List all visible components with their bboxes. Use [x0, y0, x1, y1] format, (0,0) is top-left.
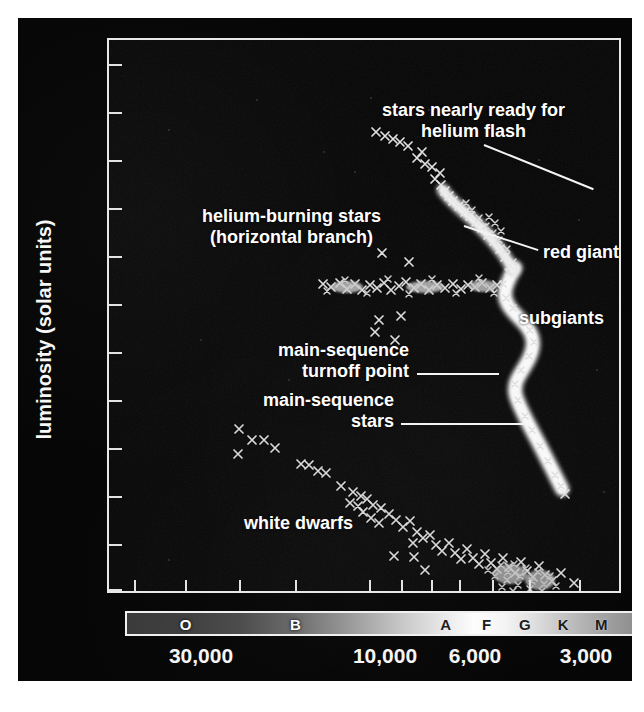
- y-tick-1e6: [109, 64, 122, 66]
- annotation-helium-flash-line1: stars nearly ready for: [382, 100, 565, 120]
- y-tick-1: [109, 352, 122, 354]
- annotation-subgiants-label: subgiants: [519, 308, 604, 328]
- plot-area: stars nearly ready forhelium flash heliu…: [109, 40, 619, 591]
- x-tick-d: [401, 580, 403, 591]
- y-tick-10: [109, 304, 122, 306]
- spectral-class-A: A: [440, 615, 451, 632]
- hr-diagram-figure: stars nearly ready forhelium flash heliu…: [0, 0, 644, 712]
- annotation-ms-turnoff: main-sequenceturnoff point: [219, 340, 409, 382]
- x-tick-c: [295, 580, 297, 591]
- x-tick-b: [239, 580, 241, 591]
- x-tick-g: [529, 580, 531, 591]
- figure-caption-cutoff: [18, 694, 618, 708]
- y-axis-title: luminosity (solar units): [33, 130, 56, 530]
- x-tick-e: [431, 580, 433, 591]
- annotation-ms-turnoff-line2: turnoff point: [302, 361, 409, 381]
- spectral-class-M: M: [595, 615, 608, 632]
- y-tick-1e3: [109, 208, 122, 210]
- x-tick-f: [492, 580, 494, 591]
- y-tick-1e-3: [109, 496, 122, 498]
- leader-ms-turnoff: [417, 373, 499, 375]
- x-axis-label-6000: 6,000: [449, 644, 502, 668]
- spectral-class-F: F: [482, 615, 491, 632]
- y-tick-0.1: [109, 400, 122, 402]
- x-tick-6000: [459, 580, 461, 591]
- y-tick-1e-5: [109, 589, 122, 591]
- x-tick-3000: [579, 580, 581, 591]
- y-tick-1e4: [109, 160, 122, 162]
- x-tick-30000: [185, 580, 187, 591]
- annotation-helium-flash-line2: helium flash: [421, 121, 526, 141]
- annotation-red-giants: red giants: [543, 242, 619, 263]
- annotation-ms-turnoff-line1: main-sequence: [278, 340, 409, 360]
- x-axis-title: surface temperature (Kelvin): [18, 678, 632, 681]
- x-tick-a: [134, 580, 136, 591]
- spectral-class-K: K: [558, 615, 569, 632]
- annotation-helium-burning: helium-burning stars(horizontal branch): [174, 206, 409, 248]
- annotation-ms-stars-line2: stars: [351, 411, 394, 431]
- spectral-class-G: G: [519, 615, 531, 632]
- y-tick-1e-4: [109, 544, 122, 546]
- annotation-ms-stars: main-sequencestars: [219, 390, 394, 432]
- spectral-class-O: O: [180, 615, 192, 632]
- x-tick-10000: [369, 580, 371, 591]
- spectral-class-bar: O B A F G K M: [125, 611, 632, 636]
- annotation-red-giants-label: red giants: [543, 242, 619, 262]
- annotation-helium-burning-line1: helium-burning stars: [202, 206, 381, 226]
- y-tick-1e-2: [109, 448, 122, 450]
- annotation-ms-stars-line1: main-sequence: [263, 390, 394, 410]
- y-tick-1e2: [109, 256, 122, 258]
- plot-frame: stars nearly ready forhelium flash heliu…: [107, 38, 621, 593]
- x-axis-label-30000: 30,000: [169, 644, 233, 668]
- x-axis-label-3000: 3,000: [560, 644, 613, 668]
- annotation-white-dwarfs: white dwarfs: [244, 513, 353, 534]
- x-axis-label-10000: 10,000: [353, 644, 417, 668]
- y-tick-1e5: [109, 112, 122, 114]
- annotation-helium-burning-line2: (horizontal branch): [210, 227, 373, 247]
- chart-panel: stars nearly ready forhelium flash heliu…: [18, 18, 632, 681]
- annotation-helium-flash: stars nearly ready forhelium flash: [366, 100, 581, 142]
- spectral-class-B: B: [290, 615, 301, 632]
- leader-ms-stars: [401, 423, 526, 425]
- annotation-subgiants: subgiants: [519, 308, 604, 329]
- annotation-white-dwarfs-label: white dwarfs: [244, 513, 353, 533]
